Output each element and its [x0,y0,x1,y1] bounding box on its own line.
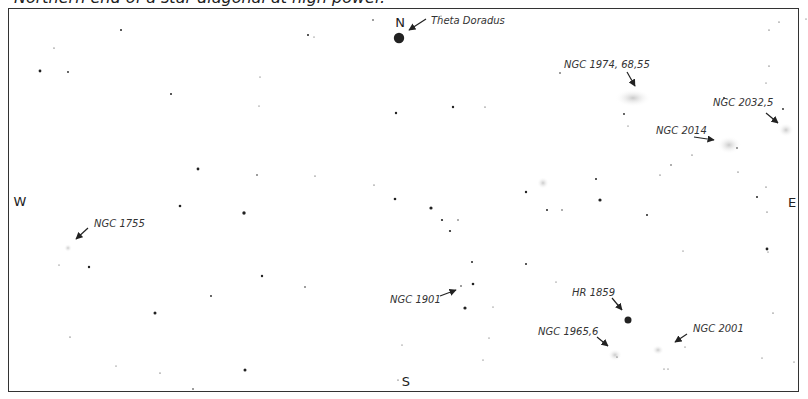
star [259,106,260,107]
star [179,205,182,208]
star [67,71,69,73]
star [307,34,309,36]
star [598,198,601,201]
star [53,47,54,48]
label-ngc-1965: NGC 1965,6 [538,326,598,337]
star [736,147,738,149]
star [768,252,769,253]
star [766,248,769,251]
star [373,184,374,185]
star [782,108,784,110]
label-ngc-1901: NGC 1901 [390,294,441,305]
nebula-ngc-2014 [717,136,741,154]
star [314,175,315,176]
star [39,70,42,73]
direction-south: S [402,374,410,389]
star [493,307,494,308]
cluster-ngc-1755 [64,244,72,252]
star [616,356,617,357]
nebula-faint [537,177,549,189]
star [670,164,671,165]
arrow-hr-1859 [612,298,622,310]
label-hr-1859: HR 1859 [572,287,615,298]
star [449,230,451,232]
star [623,113,625,115]
star [304,286,306,288]
arrow-ngc-1755 [76,228,88,239]
star [762,358,763,359]
star [766,83,767,84]
star [441,219,443,221]
star [120,29,122,31]
label-ngc-2032: NGC 2032,5 [713,97,773,108]
label-ngc-1974: NGC 1974, 68,55 [564,59,650,70]
star [256,174,258,176]
star [664,369,665,370]
star [452,106,454,108]
label-ngc-2001: NGC 2001 [693,323,744,334]
star [242,211,245,214]
star [525,191,527,193]
star [483,360,484,361]
star [756,196,758,198]
star [244,369,247,372]
star [88,266,90,268]
nebula-ngc-1974 [615,89,651,107]
star [484,106,485,107]
star [394,198,397,201]
star [768,65,769,66]
direction-north: N [395,15,405,30]
star [685,347,686,348]
star [59,265,60,266]
label-ngc-1755: NGC 1755 [94,218,145,229]
nebula-ngc-1965 [608,349,622,361]
star [260,77,261,78]
star [668,369,669,370]
star [472,283,475,286]
arrow-ngc-2032 [766,113,778,123]
arrow-ngc-2001 [675,334,687,342]
label-theta-doradus: Theta Doradus [431,15,505,26]
star [778,21,779,22]
direction-east: E [788,195,796,210]
star [69,336,70,337]
direction-west: W [14,194,27,209]
star [460,285,462,287]
star [471,261,473,263]
star [372,19,374,21]
arrow-theta-doradus [409,19,426,30]
star [556,282,557,283]
star [691,154,692,155]
arrow-ngc-1965 [597,337,608,346]
star [159,372,160,373]
star [154,312,157,315]
arrow-ngc-1901 [440,290,456,296]
star [659,174,660,175]
star [116,366,117,367]
star [683,251,684,252]
star [395,112,397,114]
star [170,93,172,95]
star-chart: N S E W Theta Doradus NGC 1974, 68,55 NG… [0,0,808,399]
star [192,388,194,390]
star [765,186,766,187]
star [463,306,466,309]
star [559,72,561,74]
star [628,126,629,127]
star [402,345,403,346]
star [806,19,807,20]
star [646,214,648,216]
star [457,219,458,220]
arrow-ngc-2014 [694,137,714,140]
star [768,29,769,30]
star [261,275,263,277]
star [794,362,795,363]
label-ngc-2014: NGC 2014 [656,125,707,136]
star [210,295,212,297]
star [766,211,767,212]
nebula-ngc-2001 [652,345,664,355]
arrow-ngc-1974 [627,72,635,86]
nebula-ngc-2032 [778,123,794,137]
star [489,338,490,339]
star [772,312,773,313]
